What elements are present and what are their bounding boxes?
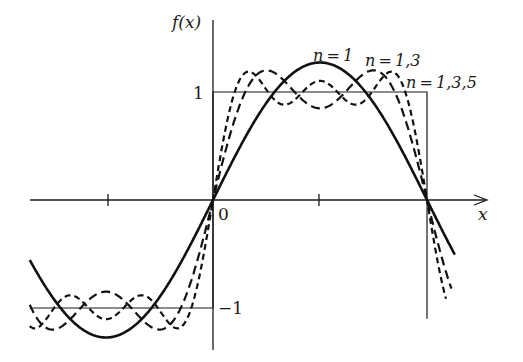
x-axis-label: x <box>478 204 488 224</box>
fourier-chart: f(x) x 0 1 −1 n = 1 n = 1,3 n = 1,3,5 <box>0 0 523 362</box>
y-axis-label: f(x) <box>170 12 201 32</box>
legend-label-n13: n = 1,3 <box>365 51 421 70</box>
legend-label-n1: n = 1 <box>313 46 353 65</box>
origin-label: 0 <box>218 204 229 224</box>
y-tick-label-minus1: −1 <box>218 298 243 318</box>
y-tick-label-1: 1 <box>193 83 204 103</box>
legend-label-n135: n = 1,3,5 <box>406 73 477 92</box>
